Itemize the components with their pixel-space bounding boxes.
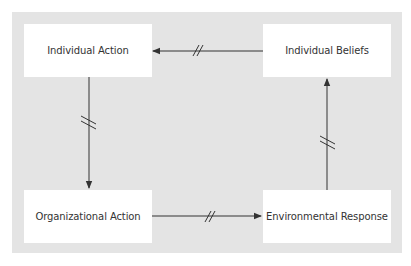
node-label: Environmental Response [266,211,388,222]
node-individual-beliefs: Individual Beliefs [263,24,391,77]
node-label: Individual Action [47,45,129,56]
node-individual-action: Individual Action [24,24,152,77]
node-environmental-response: Environmental Response [263,190,391,243]
node-label: Organizational Action [35,211,140,222]
node-label: Individual Beliefs [285,45,369,56]
node-organizational-action: Organizational Action [24,190,152,243]
